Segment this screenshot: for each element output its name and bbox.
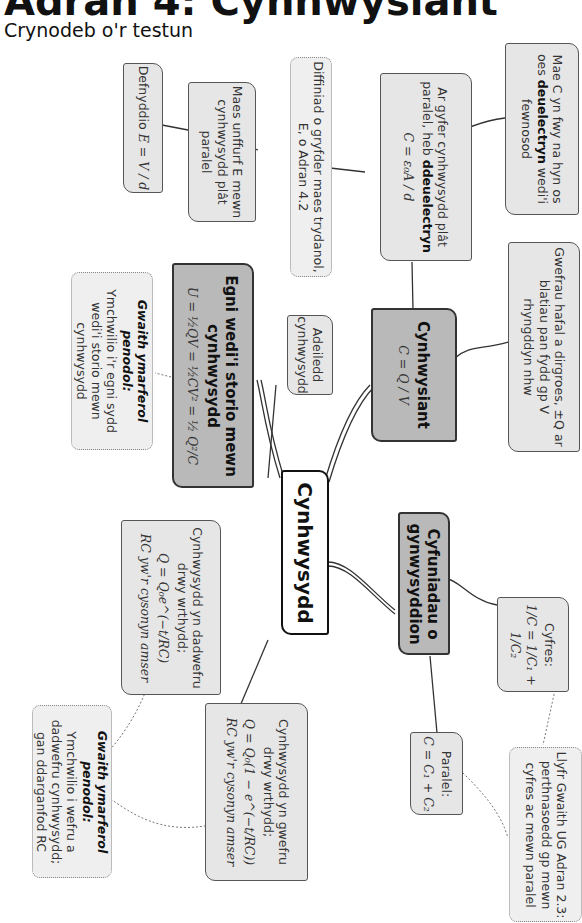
node-equal-charges: Gwefrau hafal a dirgroes, ±Q ar blatiau … [508,242,580,452]
node-stored-energy: Egni wedi'i storio mewn cynhwysydd U = ½… [172,263,254,488]
node-parallel: Paralel: C = C₁ + C₂ [410,732,463,815]
node-capacitance: Cynhwysiant C = Q / V [371,308,457,442]
node-discharging: Cynhwysydd yn dadwefru drwy wrthydd; Q =… [121,520,221,695]
node-parallel-plate: Ar gyfer cynhwysydd plât paralel, heb dd… [380,73,472,261]
node-practical-energy: Gwaith ymarferol penodol: Ymchwilio i'r … [71,272,153,450]
center-node-capacitor: Cynhwysydd [281,470,329,635]
node-use-E: Defnyddio E = V / d [123,63,163,193]
node-charging: Cynhwysydd yn gwefru drwy wrthydd; Q = Q… [205,703,308,881]
node-dielectric: Mae C yn fwy na hyn os oes deuelectryn w… [505,43,579,215]
node-combinations: Cyfuniadau o gynwysyddion [398,512,450,655]
node-field-definition: Diffiniad o gryfder maes trydanol, E, o … [290,57,332,277]
node-uniform-field: Maes unffurf E mewn cynhwysydd plât para… [188,82,256,222]
node-practical-charging: Gwaith ymarferol penodol: Ymchwilio i we… [32,705,112,878]
node-structure: Adeiledd cynhwysydd [287,315,333,395]
node-series: Cyfres: 1/C = 1/C₁ + 1/C₂ [497,597,569,692]
node-workbook-reference: Llyfr Gwaith UG Adran 2.3: perthnasoedd … [509,747,582,922]
